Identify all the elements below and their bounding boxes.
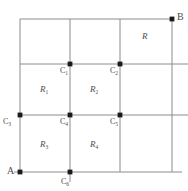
region-label-R1-sub: 1 bbox=[46, 89, 49, 95]
node-label-C6-sub: 6 bbox=[66, 181, 69, 187]
region-label-R1: R1 bbox=[40, 85, 48, 94]
region-label-R2-sub: 2 bbox=[96, 89, 99, 95]
region-label-R3-sub: 3 bbox=[46, 144, 49, 150]
vertex-dot-C1 bbox=[68, 62, 73, 67]
region-label-R1-letter: R bbox=[40, 84, 46, 94]
node-label-C2-sub: 2 bbox=[115, 70, 118, 76]
node-label-C3-sub: 3 bbox=[8, 121, 11, 127]
region-label-R2-letter: R bbox=[90, 84, 96, 94]
node-label-C4: C4 bbox=[60, 118, 68, 126]
node-label-C5: C5 bbox=[110, 118, 118, 126]
vertex-dot-C6 bbox=[68, 170, 73, 175]
corner-label-B: B bbox=[177, 12, 184, 22]
corner-label-A: A bbox=[7, 166, 14, 176]
region-label-R3-letter: R bbox=[40, 139, 46, 149]
node-label-C2: C2 bbox=[110, 67, 118, 75]
node-label-C1-sub: 1 bbox=[65, 70, 68, 76]
region-label-R4: R4 bbox=[90, 140, 98, 149]
node-label-C4-sub: 4 bbox=[65, 121, 68, 127]
vertex-dot-C4 bbox=[68, 113, 73, 118]
region-label-R4-letter: R bbox=[90, 139, 96, 149]
region-label-R: R bbox=[142, 32, 148, 41]
node-label-C5-sub: 5 bbox=[115, 121, 118, 127]
region-label-R2: R2 bbox=[90, 85, 98, 94]
vertex-dot-C2 bbox=[118, 62, 123, 67]
node-label-C3: C3 bbox=[3, 118, 11, 126]
diagram-canvas bbox=[0, 0, 188, 191]
region-label-R4-sub: 4 bbox=[96, 144, 99, 150]
node-label-C6: C6 bbox=[61, 178, 69, 186]
grid-diagram-figure: A B C1 C2 C3 C4 C5 C6 R R1 R2 R3 R4 bbox=[0, 0, 188, 191]
vertex-dot-C3 bbox=[18, 113, 23, 118]
vertex-dot-C5 bbox=[118, 113, 123, 118]
region-label-R3: R3 bbox=[40, 140, 48, 149]
vertex-dot-B bbox=[170, 17, 175, 22]
region-label-R-letter: R bbox=[142, 31, 148, 41]
vertex-dot-A bbox=[18, 170, 23, 175]
node-label-C1: C1 bbox=[60, 67, 68, 75]
